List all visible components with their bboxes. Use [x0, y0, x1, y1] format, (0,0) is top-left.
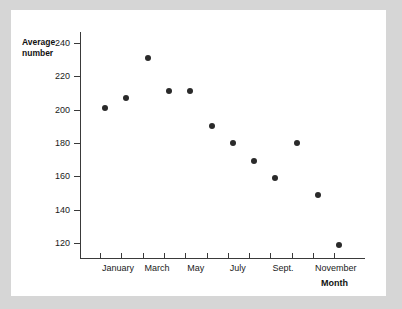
- y-axis-tick-label: 140: [30, 206, 70, 215]
- y-axis-tick: [74, 176, 81, 177]
- x-axis-tick-label: Sept.: [272, 263, 293, 273]
- y-axis-tick-label: 160: [30, 172, 70, 181]
- y-axis-tick: [74, 243, 81, 244]
- x-axis-tick: [207, 253, 208, 259]
- x-axis-tick: [164, 253, 165, 259]
- data-point: [251, 158, 257, 164]
- y-axis-tick: [74, 143, 81, 144]
- data-point: [294, 140, 300, 146]
- x-axis-tick: [292, 253, 293, 259]
- data-point: [102, 105, 108, 111]
- y-axis-tick-label: 180: [30, 139, 70, 148]
- x-axis-tick: [121, 253, 122, 259]
- x-axis-line: [80, 258, 365, 259]
- scatter-plot: Averagenumber Month 24022020018016014012…: [11, 10, 386, 296]
- data-point: [336, 242, 342, 248]
- y-axis-tick-label: 200: [30, 106, 70, 115]
- chart-card: Averagenumber Month 24022020018016014012…: [11, 10, 386, 296]
- x-axis-tick-label: January: [102, 263, 134, 273]
- y-axis-tick-label: 220: [30, 72, 70, 81]
- data-point: [187, 88, 193, 94]
- data-point: [315, 192, 321, 198]
- x-axis-tick-label: July: [230, 263, 246, 273]
- x-axis-tick-label: November: [315, 263, 357, 273]
- y-axis-title-line: number: [22, 48, 74, 59]
- x-axis-tick: [313, 253, 314, 259]
- y-axis-tick: [74, 43, 81, 44]
- data-point: [166, 88, 172, 94]
- data-point: [123, 95, 129, 101]
- x-axis-tick-label: March: [145, 263, 170, 273]
- y-axis-tick: [74, 210, 81, 211]
- x-axis-tick: [143, 253, 144, 259]
- x-axis-tick: [334, 253, 335, 259]
- y-axis-line: [80, 32, 81, 259]
- y-axis-tick: [74, 76, 81, 77]
- x-axis-title: Month: [321, 278, 348, 288]
- x-axis-tick: [270, 253, 271, 259]
- x-axis-tick: [249, 253, 250, 259]
- data-point: [230, 140, 236, 146]
- chart-page: Averagenumber Month 24022020018016014012…: [0, 0, 402, 309]
- x-axis-tick: [185, 253, 186, 259]
- x-axis-tick: [228, 253, 229, 259]
- x-axis-tick-label: May: [187, 263, 204, 273]
- y-axis-tick-label: 120: [30, 239, 70, 248]
- x-axis-tick: [100, 253, 101, 259]
- data-point: [272, 175, 278, 181]
- data-point: [209, 123, 215, 129]
- y-axis-tick: [74, 110, 81, 111]
- data-point: [145, 55, 151, 61]
- y-axis-tick-label: 240: [30, 39, 70, 48]
